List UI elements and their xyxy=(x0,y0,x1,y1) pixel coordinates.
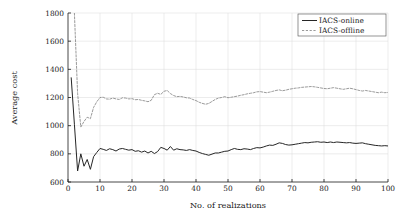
series-line-1 xyxy=(71,78,388,171)
x-axis-title: No. of realizations xyxy=(190,200,266,210)
legend: IACS-onlineIACS-offline xyxy=(298,14,386,36)
x-tick-label: 0 xyxy=(66,184,71,193)
y-tick-label: 1600 xyxy=(45,37,64,46)
x-tick-label: 50 xyxy=(223,184,233,193)
y-tick-label: 1400 xyxy=(45,65,64,74)
legend-label-2: IACS-offline xyxy=(319,26,364,35)
x-tick-label: 20 xyxy=(127,184,137,193)
y-tick-label: 1800 xyxy=(45,9,64,18)
x-tick-label: 90 xyxy=(351,184,361,193)
x-tick-label: 30 xyxy=(159,184,169,193)
figure: 6008001000120014001600180001020304050607… xyxy=(0,0,404,215)
x-tick-label: 70 xyxy=(287,184,297,193)
y-tick-label: 800 xyxy=(50,149,64,158)
y-axis-title: Average cost xyxy=(9,71,19,126)
x-tick-label: 80 xyxy=(319,184,329,193)
x-tick-label: 40 xyxy=(191,184,201,193)
y-tick-label: 1200 xyxy=(45,93,64,102)
x-tick-label: 10 xyxy=(95,184,105,193)
x-tick-label: 60 xyxy=(255,184,265,193)
x-tick-label: 100 xyxy=(381,184,395,193)
y-tick-label: 1000 xyxy=(45,121,64,130)
legend-label-1: IACS-online xyxy=(319,16,364,25)
y-tick-label: 600 xyxy=(50,178,64,187)
line-chart: 6008001000120014001600180001020304050607… xyxy=(0,0,404,215)
